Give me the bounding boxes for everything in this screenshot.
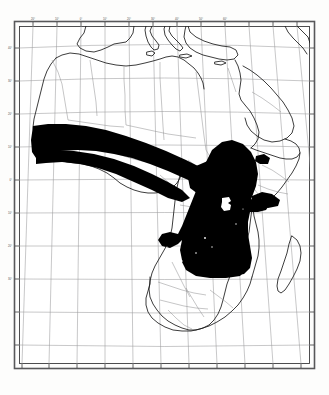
lon-label-top: 20° [31,17,35,21]
lat-label-left: 10° [8,211,12,215]
range-speckle [242,208,243,209]
range-speckle [166,246,167,247]
range-speckle [195,252,197,254]
lon-label-top: 40° [175,17,179,21]
range-speckle [204,237,206,239]
range-speckle [211,246,212,247]
lon-label-top: 10° [103,17,107,21]
lat-label-left: 10° [8,145,12,149]
lake-victoria-hole [221,197,231,211]
lon-label-top: 50° [199,17,203,21]
range-speckle [235,223,236,224]
lat-label-left: 20° [8,112,12,116]
lat-label-left: 30° [8,79,12,83]
lat-label-left: 0° [10,178,12,182]
lat-label-left: 30° [8,277,12,281]
distribution-map: 20° 10° 0° 10° 20° 30° 40° 50° 60° 40° 3… [0,0,329,395]
lon-label-top: 0° [80,17,82,21]
lon-label-top: 20° [127,17,131,21]
lon-label-top: 10° [55,17,59,21]
lon-label-top: 30° [151,17,155,21]
figure-container: 20° 10° 0° 10° 20° 30° 40° 50° 60° 40° 3… [0,0,329,395]
lon-label-top: 60° [223,17,227,21]
lat-label-left: 20° [8,244,12,248]
lat-label-left: 40° [8,46,12,50]
